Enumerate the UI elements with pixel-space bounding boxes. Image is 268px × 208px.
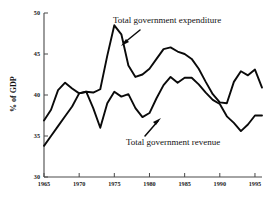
x-tick-label: 1980 [143, 180, 155, 187]
y-axis-title: % of GDP [9, 76, 18, 112]
y-tick-label: 40 [34, 91, 40, 98]
x-tick-label: 1990 [214, 180, 226, 187]
annotation-expenditure-label: Total government expenditure [113, 15, 221, 25]
x-axis: 1965197019751980198519901995 [38, 173, 262, 187]
y-tick-label: 50 [34, 9, 40, 16]
x-tick-label: 1995 [249, 180, 261, 187]
annotation-revenue-arrowhead [153, 118, 161, 125]
x-tick-label: 1985 [178, 180, 190, 187]
x-tick-label: 1975 [108, 180, 120, 187]
chart-container: 3035404550 1965197019751980198519901995 … [0, 0, 268, 208]
annotation-revenue: Total government revenue [126, 118, 220, 147]
x-tick-label: 1965 [38, 180, 50, 187]
line-chart: 3035404550 1965197019751980198519901995 … [0, 0, 268, 208]
series-line-total-government-revenue [44, 77, 262, 146]
y-axis: 3035404550 [34, 9, 48, 180]
annotation-revenue-label: Total government revenue [126, 137, 220, 147]
y-tick-label: 35 [34, 132, 40, 139]
x-tick-label: 1970 [73, 180, 85, 187]
x-tick-group: 1965197019751980198519901995 [38, 173, 261, 187]
y-tick-group: 3035404550 [34, 9, 48, 180]
annotation-expenditure: Total government expenditure [113, 15, 221, 46]
y-tick-label: 45 [34, 50, 40, 57]
